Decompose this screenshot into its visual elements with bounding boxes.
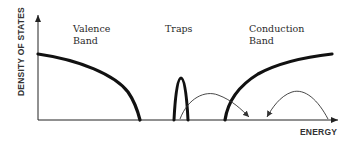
valence-band-label-line2: Band — [73, 35, 98, 46]
conduction-band-label-line2: Band — [249, 35, 274, 46]
y-axis-label: DENSITY OF STATES — [16, 7, 26, 96]
trap-transition-arrow — [180, 94, 249, 119]
valence-band-curve — [38, 54, 140, 120]
valence-band-label-line1: Valence — [72, 23, 111, 34]
conduction-band-label-line1: Conduction — [249, 23, 304, 34]
x-axis-label: ENERGY — [300, 127, 337, 137]
trap-peak-curve — [174, 78, 188, 120]
traps-label: Traps — [165, 23, 193, 34]
density-of-states-diagram: DENSITY OF STATES ENERGY Valence Band Tr… — [0, 0, 352, 147]
conduction-band-curve — [225, 54, 332, 120]
conduction-transition-arrow — [267, 91, 328, 119]
